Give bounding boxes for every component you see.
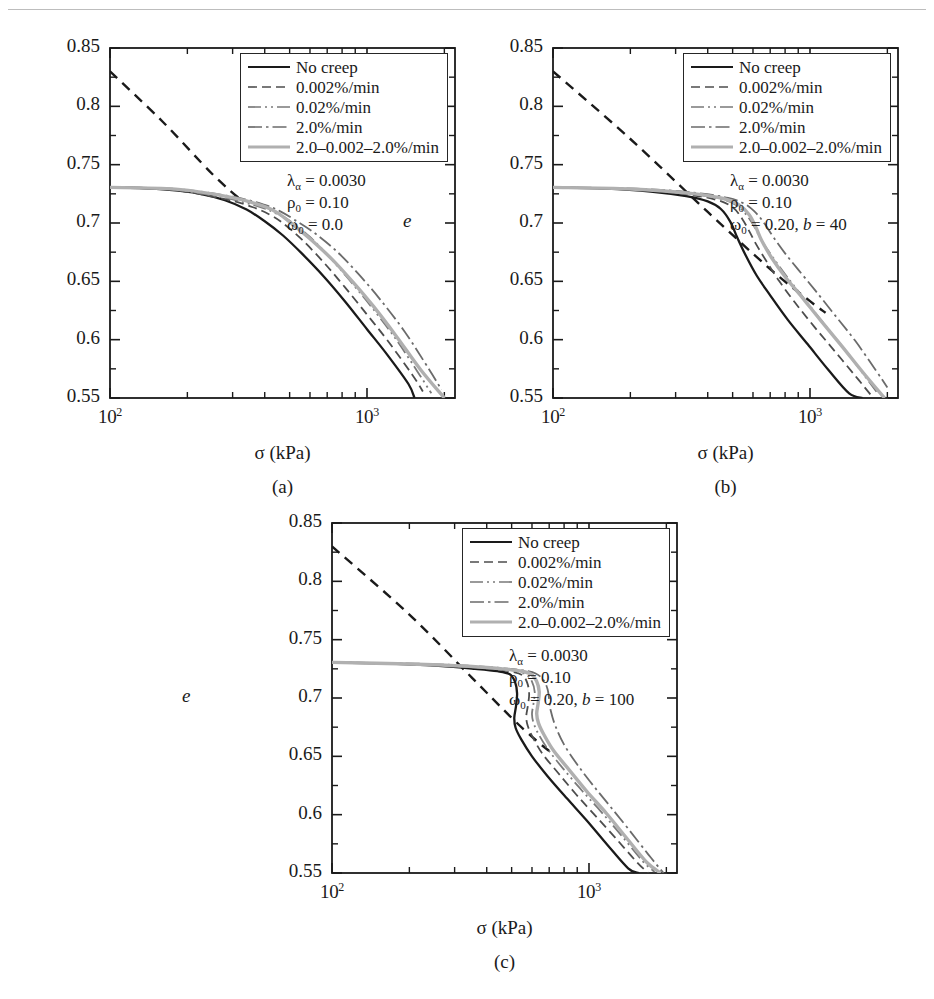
- x-tick-label: 102: [513, 406, 593, 428]
- legend-line-sample: [247, 60, 291, 74]
- legend-line-sample: [690, 140, 734, 154]
- series-no-creep: [110, 187, 414, 398]
- legend-item-label: 0.02%/min: [739, 99, 814, 116]
- legend-item: 0.02%/min: [247, 97, 440, 117]
- panel-caption-b: (b): [666, 476, 786, 498]
- parameter-annotation: λα = 0.0030ρ0 = 0.10ω0 = 0.0: [287, 170, 366, 236]
- chart-panel-c: 0.850.80.750.70.650.60.55e102103σ (kPa)(…: [222, 505, 692, 975]
- legend-item-label: 2.0%/min: [739, 119, 806, 136]
- legend-item-label: 2.0%/min: [518, 594, 585, 611]
- legend-item-label: 2.0–0.002–2.0%/min: [518, 614, 661, 631]
- y-tick-label: 0.85: [445, 35, 543, 57]
- param-rho: ρ0 = 0.10: [730, 192, 847, 214]
- y-tick-label: 0.7: [445, 210, 543, 232]
- series-0-002-min: [110, 187, 423, 391]
- legend: No creep0.002%/min0.02%/min2.0%/min2.0–0…: [240, 53, 448, 162]
- parameter-annotation: λα = 0.0030ρ0 = 0.10ω0 = 0.20, b = 100: [509, 645, 634, 711]
- legend: No creep0.002%/min0.02%/min2.0%/min2.0–0…: [462, 528, 670, 637]
- legend-item-label: 2.0%/min: [296, 119, 363, 136]
- legend-item: 0.002%/min: [247, 77, 440, 97]
- legend-line-sample: [690, 100, 734, 114]
- legend-item-label: 0.02%/min: [296, 99, 371, 116]
- legend-item: 2.0%/min: [247, 117, 440, 137]
- series-reference-line: [110, 71, 243, 202]
- legend-item: 2.0–0.002–2.0%/min: [247, 137, 440, 157]
- legend-line-sample: [247, 80, 291, 94]
- legend-item-label: 0.02%/min: [518, 574, 593, 591]
- legend-line-sample: [469, 575, 513, 589]
- legend-item-label: 2.0–0.002–2.0%/min: [296, 139, 439, 156]
- legend-item: 0.002%/min: [469, 552, 662, 572]
- x-tick-label: 103: [770, 406, 850, 428]
- legend-line-sample: [690, 60, 734, 74]
- legend-item: 2.0–0.002–2.0%/min: [469, 612, 662, 632]
- y-tick-label: 0.6: [445, 327, 543, 349]
- y-tick-label: 0.85: [224, 510, 322, 532]
- parameter-annotation: λα = 0.0030ρ0 = 0.10ω0 = 0.20, b = 40: [730, 170, 847, 236]
- legend-line-sample: [690, 80, 734, 94]
- legend-line-sample: [469, 595, 513, 609]
- y-tick-label: 0.75: [445, 152, 543, 174]
- legend-item-label: 0.002%/min: [518, 554, 602, 571]
- param-rho: ρ0 = 0.10: [509, 667, 634, 689]
- y-tick-label: 0.55: [445, 385, 543, 407]
- y-tick-label: 0.75: [224, 627, 322, 649]
- legend-item-label: 0.002%/min: [739, 79, 823, 96]
- panel-caption-c: (c): [445, 951, 565, 973]
- y-tick-label: 0.6: [2, 327, 100, 349]
- y-tick-label: 0.8: [224, 568, 322, 590]
- legend-line-sample: [690, 120, 734, 134]
- x-tick-label: 102: [292, 881, 372, 903]
- legend-line-sample: [247, 140, 291, 154]
- legend-item-label: No creep: [518, 534, 580, 551]
- param-omega: ω0 = 0.20, b = 40: [730, 214, 847, 236]
- series-0-02-min: [110, 187, 431, 393]
- x-axis-title: σ (kPa): [405, 917, 605, 939]
- y-tick-label: 0.6: [224, 802, 322, 824]
- x-tick-label: 103: [327, 406, 407, 428]
- legend-item-label: 0.002%/min: [296, 79, 380, 96]
- legend-item-label: 2.0–0.002–2.0%/min: [739, 139, 882, 156]
- y-axis-title: e: [182, 685, 190, 707]
- param-omega: ω0 = 0.20, b = 100: [509, 689, 634, 711]
- panel-caption-a: (a): [223, 476, 343, 498]
- legend-line-sample: [247, 100, 291, 114]
- y-tick-label: 0.85: [2, 35, 100, 57]
- legend-item: No creep: [247, 57, 440, 77]
- y-tick-label: 0.75: [2, 152, 100, 174]
- legend-item: 2.0%/min: [690, 117, 883, 137]
- y-tick-label: 0.65: [2, 268, 100, 290]
- page-top-rule: [8, 9, 926, 10]
- x-tick-label: 102: [70, 406, 150, 428]
- legend-item: 2.0–0.002–2.0%/min: [690, 137, 883, 157]
- param-lambda: λα = 0.0030: [509, 645, 634, 667]
- legend-item: 2.0%/min: [469, 592, 662, 612]
- legend-line-sample: [247, 120, 291, 134]
- x-axis-title: σ (kPa): [183, 442, 383, 464]
- y-tick-label: 0.8: [2, 93, 100, 115]
- y-tick-label: 0.65: [224, 743, 322, 765]
- legend-item: 0.002%/min: [690, 77, 883, 97]
- y-tick-label: 0.8: [445, 93, 543, 115]
- legend-item-label: No creep: [296, 59, 358, 76]
- legend-item: No creep: [690, 57, 883, 77]
- x-axis-title: σ (kPa): [626, 442, 826, 464]
- legend-line-sample: [469, 555, 513, 569]
- y-tick-label: 0.55: [2, 385, 100, 407]
- param-lambda: λα = 0.0030: [730, 170, 847, 192]
- y-tick-label: 0.7: [2, 210, 100, 232]
- legend-item-label: No creep: [739, 59, 801, 76]
- chart-panel-a: 0.850.80.750.70.650.60.55e102103σ (kPa)(…: [0, 30, 470, 500]
- legend: No creep0.002%/min0.02%/min2.0%/min2.0–0…: [683, 53, 891, 162]
- x-tick-label: 103: [549, 881, 629, 903]
- y-tick-label: 0.55: [224, 860, 322, 882]
- y-tick-label: 0.65: [445, 268, 543, 290]
- param-rho: ρ0 = 0.10: [287, 192, 366, 214]
- legend-item: 0.02%/min: [690, 97, 883, 117]
- legend-line-sample: [469, 615, 513, 629]
- param-lambda: λα = 0.0030: [287, 170, 366, 192]
- chart-panel-b: 0.850.80.750.70.650.60.55e102103σ (kPa)(…: [443, 30, 913, 500]
- legend-line-sample: [469, 535, 513, 549]
- y-tick-label: 0.7: [224, 685, 322, 707]
- param-omega: ω0 = 0.0: [287, 214, 366, 236]
